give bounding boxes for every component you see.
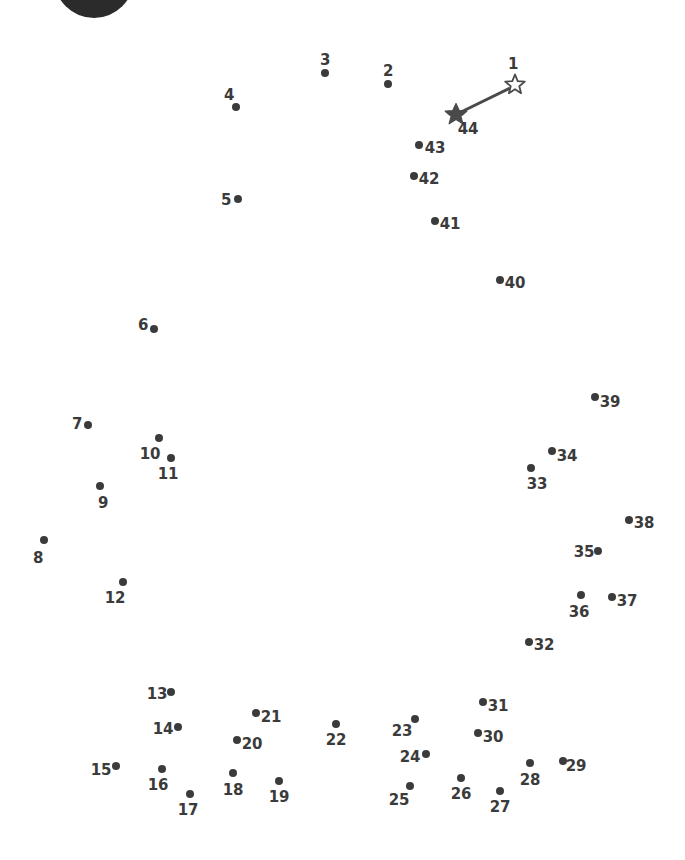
puzzle-dot-33[interactable] — [527, 464, 535, 472]
puzzle-dot-label-36: 36 — [569, 605, 589, 620]
puzzle-dot-label-23: 23 — [392, 724, 412, 739]
puzzle-dot-label-11: 11 — [158, 467, 178, 482]
puzzle-dot-21[interactable] — [252, 709, 260, 717]
puzzle-dot-label-26: 26 — [451, 787, 471, 802]
puzzle-dot-31[interactable] — [479, 698, 487, 706]
connect-the-dots-canvas: 2345678910111213141516171819202122232425… — [0, 0, 685, 860]
puzzle-dot-label-13: 13 — [147, 687, 167, 702]
puzzle-dot-13[interactable] — [167, 688, 175, 696]
puzzle-dot-label-40: 40 — [505, 276, 525, 291]
puzzle-dot-7[interactable] — [84, 421, 92, 429]
puzzle-dot-label-22: 22 — [326, 733, 346, 748]
puzzle-dot-38[interactable] — [625, 516, 633, 524]
puzzle-dot-35[interactable] — [594, 547, 602, 555]
puzzle-dot-label-4: 4 — [224, 88, 234, 103]
puzzle-dot-16[interactable] — [158, 765, 166, 773]
puzzle-dot-32[interactable] — [525, 638, 533, 646]
puzzle-dot-41[interactable] — [431, 217, 439, 225]
puzzle-dot-label-19: 19 — [269, 790, 289, 805]
puzzle-dot-17[interactable] — [186, 790, 194, 798]
puzzle-dot-label-6: 6 — [138, 318, 148, 333]
puzzle-dot-14[interactable] — [174, 723, 182, 731]
puzzle-dot-label-9: 9 — [98, 496, 108, 511]
puzzle-dot-label-10: 10 — [140, 447, 160, 462]
puzzle-dot-20[interactable] — [233, 736, 241, 744]
puzzle-dot-label-43: 43 — [425, 141, 445, 156]
puzzle-dot-10[interactable] — [155, 434, 163, 442]
puzzle-dot-26[interactable] — [457, 774, 465, 782]
puzzle-dot-label-8: 8 — [33, 551, 43, 566]
end-star-label: 44 — [458, 122, 478, 137]
puzzle-dot-18[interactable] — [229, 769, 237, 777]
puzzle-dot-label-24: 24 — [400, 750, 420, 765]
puzzle-dot-label-5: 5 — [221, 193, 231, 208]
puzzle-dot-4[interactable] — [232, 103, 240, 111]
puzzle-dot-34[interactable] — [548, 447, 556, 455]
puzzle-dot-label-2: 2 — [383, 64, 393, 79]
puzzle-dot-5[interactable] — [234, 195, 242, 203]
puzzle-dot-30[interactable] — [474, 729, 482, 737]
puzzle-dot-label-27: 27 — [490, 800, 510, 815]
puzzle-dot-label-35: 35 — [574, 545, 594, 560]
puzzle-dot-label-14: 14 — [153, 722, 173, 737]
puzzle-dot-label-28: 28 — [520, 773, 540, 788]
puzzle-dot-28[interactable] — [526, 759, 534, 767]
puzzle-dot-27[interactable] — [496, 787, 504, 795]
puzzle-dot-42[interactable] — [410, 172, 418, 180]
puzzle-dot-19[interactable] — [275, 777, 283, 785]
puzzle-dot-label-37: 37 — [617, 594, 637, 609]
puzzle-dot-25[interactable] — [406, 782, 414, 790]
puzzle-dot-label-42: 42 — [419, 172, 439, 187]
puzzle-dot-3[interactable] — [321, 69, 329, 77]
puzzle-dot-12[interactable] — [119, 578, 127, 586]
puzzle-dot-15[interactable] — [112, 762, 120, 770]
puzzle-dot-label-41: 41 — [440, 217, 460, 232]
puzzle-dot-label-15: 15 — [91, 763, 111, 778]
puzzle-dot-label-25: 25 — [389, 793, 409, 808]
puzzle-dot-label-21: 21 — [261, 710, 281, 725]
puzzle-dot-label-34: 34 — [557, 449, 577, 464]
puzzle-dot-label-7: 7 — [72, 417, 82, 432]
puzzle-dot-23[interactable] — [411, 715, 419, 723]
puzzle-dot-22[interactable] — [332, 720, 340, 728]
puzzle-dot-36[interactable] — [577, 591, 585, 599]
puzzle-dot-11[interactable] — [167, 454, 175, 462]
puzzle-dot-label-17: 17 — [178, 803, 198, 818]
puzzle-dot-9[interactable] — [96, 482, 104, 490]
partial-dark-circle-logo — [54, 0, 134, 18]
puzzle-dot-label-12: 12 — [105, 591, 125, 606]
start-star-label: 1 — [508, 57, 518, 72]
puzzle-dot-40[interactable] — [496, 276, 504, 284]
puzzle-dot-label-16: 16 — [148, 778, 168, 793]
puzzle-dot-label-33: 33 — [527, 477, 547, 492]
puzzle-dot-label-39: 39 — [600, 395, 620, 410]
puzzle-dot-2[interactable] — [384, 80, 392, 88]
puzzle-dot-24[interactable] — [422, 750, 430, 758]
puzzle-dot-label-20: 20 — [242, 737, 262, 752]
start-hollow-star-icon[interactable] — [504, 73, 526, 95]
puzzle-dot-label-3: 3 — [320, 53, 330, 68]
puzzle-dot-37[interactable] — [608, 593, 616, 601]
puzzle-dot-label-32: 32 — [534, 638, 554, 653]
puzzle-dot-8[interactable] — [40, 536, 48, 544]
puzzle-dot-6[interactable] — [150, 325, 158, 333]
puzzle-dot-label-29: 29 — [566, 759, 586, 774]
puzzle-dot-43[interactable] — [415, 141, 423, 149]
puzzle-dot-39[interactable] — [591, 393, 599, 401]
puzzle-dot-label-38: 38 — [634, 516, 654, 531]
puzzle-dot-label-18: 18 — [223, 783, 243, 798]
puzzle-dot-label-30: 30 — [483, 730, 503, 745]
puzzle-dot-label-31: 31 — [488, 699, 508, 714]
